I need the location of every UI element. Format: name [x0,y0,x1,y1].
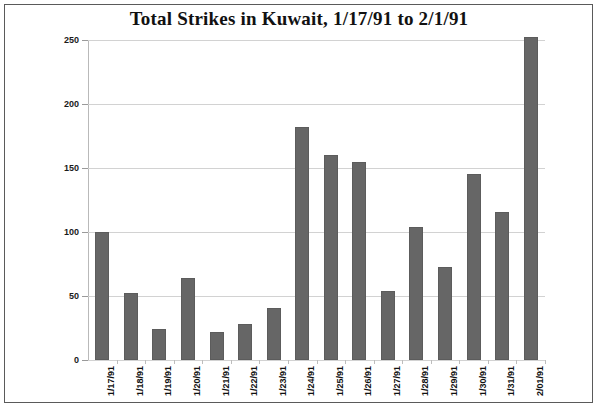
x-tick-label: 1/22/91 [249,366,259,396]
bar[interactable] [409,227,423,360]
bar[interactable] [210,332,224,360]
x-tick-mark [345,360,346,364]
x-tick-label: 1/23/91 [278,366,288,396]
x-tick-label: 1/17/91 [106,366,116,396]
bar[interactable] [524,37,538,360]
plot-area: 050100150200250 1/17/911/18/911/19/911/2… [88,40,545,360]
bar[interactable] [152,329,166,360]
x-tick-mark [516,360,517,364]
y-tick-label: 250 [64,35,79,45]
gridline [88,168,545,169]
x-tick-mark [431,360,432,364]
x-tick-mark [459,360,460,364]
y-tick-mark [82,296,88,297]
y-tick-label: 100 [64,227,79,237]
y-tick-label: 200 [64,99,79,109]
bar[interactable] [324,155,338,360]
x-tick-label: 1/26/91 [363,366,373,396]
x-tick-label: 1/27/91 [392,366,402,396]
y-tick-label: 150 [64,163,79,173]
x-tick-label: 1/29/91 [449,366,459,396]
x-tick-mark [259,360,260,364]
bar[interactable] [124,293,138,360]
chart-figure: Total Strikes in Kuwait, 1/17/91 to 2/1/… [0,0,598,408]
x-tick-label: 1/19/91 [163,366,173,396]
y-tick-label: 50 [69,291,79,301]
x-tick-mark [288,360,289,364]
bar[interactable] [352,162,366,360]
x-tick-mark [117,360,118,364]
bar[interactable] [295,127,309,360]
bar[interactable] [438,267,452,360]
gridline [88,40,545,41]
y-tick-mark [82,232,88,233]
y-tick-mark [82,40,88,41]
x-tick-mark [145,360,146,364]
x-tick-mark [231,360,232,364]
y-tick-mark [82,104,88,105]
y-tick-label: 0 [74,355,79,365]
x-tick-label: 1/25/91 [335,366,345,396]
x-tick-mark [402,360,403,364]
gridline [88,104,545,105]
x-tick-mark [545,360,546,364]
bar[interactable] [267,308,281,360]
x-tick-label: 1/18/91 [135,366,145,396]
bar[interactable] [467,174,481,360]
x-tick-label: 1/20/91 [192,366,202,396]
bar[interactable] [381,291,395,360]
bar[interactable] [238,324,252,360]
x-tick-label: 1/24/91 [306,366,316,396]
bar[interactable] [95,232,109,360]
y-tick-mark [82,360,88,361]
bar[interactable] [181,278,195,360]
x-tick-label: 2/01/91 [535,366,545,396]
x-tick-mark [374,360,375,364]
x-tick-mark [202,360,203,364]
bar[interactable] [495,212,509,360]
chart-title: Total Strikes in Kuwait, 1/17/91 to 2/1/… [0,8,598,30]
y-tick-mark [82,168,88,169]
x-tick-label: 1/30/91 [478,366,488,396]
x-tick-mark [488,360,489,364]
x-tick-label: 1/28/91 [420,366,430,396]
x-tick-label: 1/31/91 [506,366,516,396]
x-tick-mark [317,360,318,364]
x-tick-label: 1/21/91 [221,366,231,396]
x-tick-mark [174,360,175,364]
